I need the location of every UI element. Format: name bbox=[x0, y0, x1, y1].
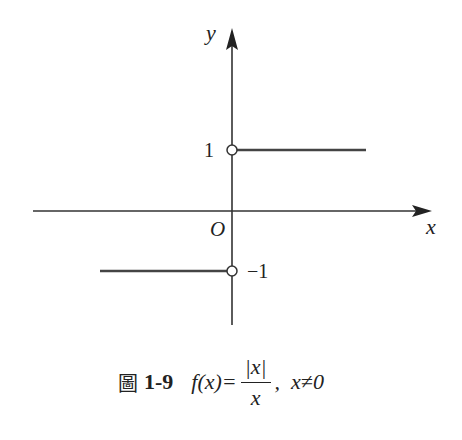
x-axis-label: x bbox=[426, 216, 436, 238]
fraction-numerator: |x| bbox=[241, 354, 271, 383]
figure-number: 1-9 bbox=[144, 369, 173, 395]
caption-fraction: |x| x bbox=[241, 354, 271, 411]
caption-lhs: f(x)= bbox=[191, 369, 236, 395]
figure-caption: 圖 1-9 f(x)= |x| x , x≠0 bbox=[118, 352, 324, 412]
y-tick-label-neg1: −1 bbox=[247, 261, 268, 281]
open-point-positive bbox=[227, 145, 237, 155]
figure-word: 圖 bbox=[118, 368, 138, 397]
y-tick-label-1: 1 bbox=[204, 140, 214, 160]
y-axis-label: y bbox=[206, 22, 216, 44]
origin-label: O bbox=[210, 219, 225, 240]
caption-condition: , x≠0 bbox=[275, 369, 324, 395]
open-point-negative bbox=[227, 266, 237, 276]
fraction-denominator: x bbox=[251, 383, 261, 411]
